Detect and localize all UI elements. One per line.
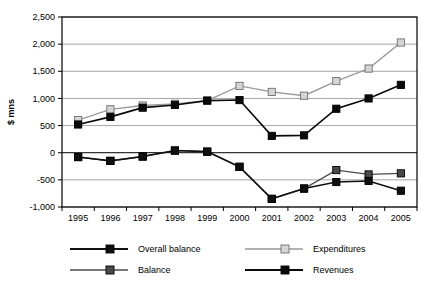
y-tick-label: 1,500 <box>32 66 55 76</box>
x-tick-label: 1995 <box>68 213 88 223</box>
data-point <box>236 96 243 103</box>
x-tick-label: 2005 <box>391 213 411 223</box>
x-tick-label: 1997 <box>133 213 153 223</box>
data-point <box>365 65 372 72</box>
y-axis-title: $ mns <box>6 99 16 125</box>
legend: Overall balanceExpendituresBalanceRevenu… <box>70 244 366 275</box>
data-point <box>397 39 404 46</box>
y-axis: 2,5002,0001,5001,0005000-500-1,000 <box>29 12 62 212</box>
y-tick-label: 2,000 <box>32 39 55 49</box>
data-point <box>268 88 275 95</box>
y-tick-label: -500 <box>37 175 55 185</box>
x-axis: 1995199619971998199920002001200220032004… <box>62 207 417 223</box>
legend-label: Overall balance <box>138 244 201 254</box>
x-tick-label: 2000 <box>229 213 249 223</box>
data-point <box>268 132 275 139</box>
data-point <box>333 105 340 112</box>
data-point <box>333 77 340 84</box>
x-tick-label: 2001 <box>262 213 282 223</box>
legend-label: Expenditures <box>313 244 366 254</box>
data-point <box>333 178 340 185</box>
data-point <box>204 97 211 104</box>
data-point <box>300 92 307 99</box>
legend-marker <box>106 266 114 274</box>
data-point <box>107 157 114 164</box>
data-point <box>204 148 211 155</box>
data-point <box>75 121 82 128</box>
data-point <box>333 166 340 173</box>
data-point <box>139 104 146 111</box>
legend-marker <box>281 245 289 253</box>
x-tick-label: 2002 <box>294 213 314 223</box>
data-point <box>171 101 178 108</box>
data-point <box>365 95 372 102</box>
legend-marker <box>106 245 114 253</box>
x-tick-label: 1998 <box>165 213 185 223</box>
chart-container: 2,5002,0001,5001,0005000-500-1,000$ mns1… <box>0 0 435 286</box>
legend-item[interactable]: Balance <box>70 265 171 275</box>
y-tick-label: 2,500 <box>32 12 55 22</box>
data-point <box>139 153 146 160</box>
x-tick-label: 1996 <box>100 213 120 223</box>
data-point <box>397 187 404 194</box>
x-tick-label: 2003 <box>326 213 346 223</box>
y-tick-label: 0 <box>50 148 55 158</box>
legend-item[interactable]: Overall balance <box>70 244 201 254</box>
data-point <box>397 170 404 177</box>
x-tick-label: 1999 <box>197 213 217 223</box>
data-point <box>236 82 243 89</box>
data-point <box>236 163 243 170</box>
legend-item[interactable]: Expenditures <box>245 244 366 254</box>
legend-label: Revenues <box>313 265 354 275</box>
line-chart: 2,5002,0001,5001,0005000-500-1,000$ mns1… <box>0 0 435 286</box>
data-point <box>171 147 178 154</box>
plot-background <box>62 17 417 207</box>
data-point <box>107 113 114 120</box>
y-tick-label: 1,000 <box>32 94 55 104</box>
y-tick-label: -1,000 <box>29 202 55 212</box>
legend-marker <box>281 266 289 274</box>
data-point <box>365 177 372 184</box>
legend-label: Balance <box>138 265 171 275</box>
data-point <box>300 132 307 139</box>
data-point <box>397 81 404 88</box>
y-tick-label: 500 <box>40 121 55 131</box>
legend-item[interactable]: Revenues <box>245 265 354 275</box>
data-point <box>300 185 307 192</box>
x-tick-label: 2004 <box>359 213 379 223</box>
data-point <box>268 195 275 202</box>
data-point <box>107 106 114 113</box>
data-point <box>75 153 82 160</box>
